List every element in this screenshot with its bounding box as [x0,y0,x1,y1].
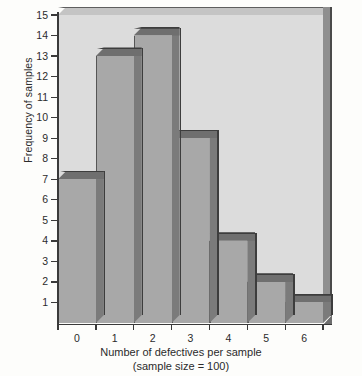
histogram-figure: Frequency of samples 1514131211109876543… [0,0,362,376]
y-tick-label: 15 [24,10,48,20]
bar-right-edge [104,171,106,315]
plot-panel-right-edge [330,7,332,316]
y-axis-line [57,12,59,325]
bar-right-edge [180,28,182,315]
bar-right-face [209,130,217,323]
y-tick-label: 12 [24,71,48,81]
bar-right-edge [293,274,295,315]
bar-right-face [96,171,104,323]
bar-top-edge [58,171,104,173]
plot-panel-top-face [58,7,323,15]
bar-right-edge [331,294,333,315]
y-tick-label: 3 [24,256,48,266]
y-tick-label: 10 [24,112,48,122]
bar-top-edge [96,47,142,49]
y-tick-label: 2 [24,276,48,286]
bar-top-edge [134,27,180,29]
y-tick-label: 11 [24,92,48,102]
y-tick-label: 7 [24,174,48,184]
plot-panel-top-edge [58,7,331,9]
x-tick-label: 4 [217,332,239,344]
x-tick-label: 1 [104,332,126,344]
y-tick-label: 4 [24,235,48,245]
bar [58,179,96,323]
x-tick-label: 6 [293,332,315,344]
y-tick-label: 13 [24,51,48,61]
bar-front-face [58,179,96,323]
bar-right-edge [217,130,219,315]
x-tick-label: 0 [66,332,88,344]
y-tick-label: 6 [24,194,48,204]
y-tick-label: 1 [24,297,48,307]
y-tick-label: 8 [24,153,48,163]
y-tick-label: 9 [24,133,48,143]
x-tick-label: 3 [180,332,202,344]
bar-right-edge [142,48,144,315]
x-axis-title: Number of defectives per sample [0,346,362,358]
x-tick-label: 2 [142,332,164,344]
bar-right-face [172,28,180,323]
y-tick-label: 5 [24,215,48,225]
bar-right-edge [255,233,257,315]
x-axis-subtitle: (sample size = 100) [0,360,362,372]
bar-right-face [247,233,255,323]
x-axis-line [57,324,332,326]
y-tick-label: 14 [24,30,48,40]
x-tick-label: 5 [255,332,277,344]
bar-right-face [134,48,142,323]
